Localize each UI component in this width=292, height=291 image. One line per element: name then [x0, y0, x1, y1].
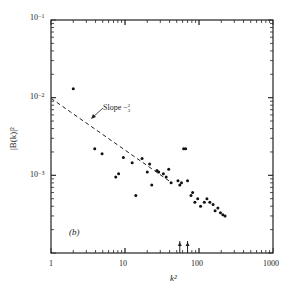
- x-axis-title: k²: [170, 273, 177, 283]
- data-point: [131, 161, 134, 164]
- data-point: [205, 197, 208, 200]
- data-point: [150, 184, 153, 187]
- data-point: [157, 171, 160, 174]
- data-point: [162, 172, 165, 175]
- data-point: [101, 152, 104, 155]
- data-point: [148, 162, 151, 165]
- x-tick-label: 1: [49, 260, 53, 268]
- x-tick-label: 1000: [263, 260, 279, 268]
- data-point: [165, 176, 168, 179]
- data-point: [190, 194, 193, 197]
- data-point: [212, 203, 215, 206]
- data-point: [184, 147, 187, 150]
- data-point: [191, 191, 194, 194]
- y-tick-label: 10−1: [30, 14, 44, 22]
- data-point: [180, 181, 183, 184]
- data-point: [170, 181, 173, 184]
- panel-label: (b): [69, 227, 80, 237]
- data-point: [219, 211, 222, 214]
- data-point: [208, 201, 211, 204]
- y-axis-title: |B(k)|²: [8, 127, 18, 150]
- data-point: [186, 179, 189, 182]
- data-point: [114, 176, 117, 179]
- data-point: [93, 147, 96, 150]
- y-tick-label: 10−2: [30, 93, 44, 101]
- data-point: [146, 171, 149, 174]
- data-point: [141, 157, 144, 160]
- data-point: [117, 172, 120, 175]
- data-point: [203, 201, 206, 204]
- data-point: [216, 206, 219, 209]
- data-point: [199, 205, 202, 208]
- slope-annotation: Slope −23: [103, 103, 130, 113]
- data-point: [214, 209, 217, 212]
- x-tick-label: 10: [119, 260, 127, 268]
- data-point: [72, 87, 75, 90]
- plot-frame: [51, 20, 273, 253]
- scatter-plot: [0, 0, 292, 291]
- data-point: [176, 179, 179, 182]
- arrow-up-icon: [178, 242, 182, 246]
- data-point: [122, 156, 125, 159]
- data-point: [196, 197, 199, 200]
- y-tick-label: 10−3: [30, 171, 44, 179]
- arrow-up-icon: [186, 242, 190, 246]
- data-point: [224, 214, 227, 217]
- data-point: [193, 201, 196, 204]
- data-point: [134, 194, 137, 197]
- data-point: [167, 168, 170, 171]
- x-tick-label: 100: [191, 260, 203, 268]
